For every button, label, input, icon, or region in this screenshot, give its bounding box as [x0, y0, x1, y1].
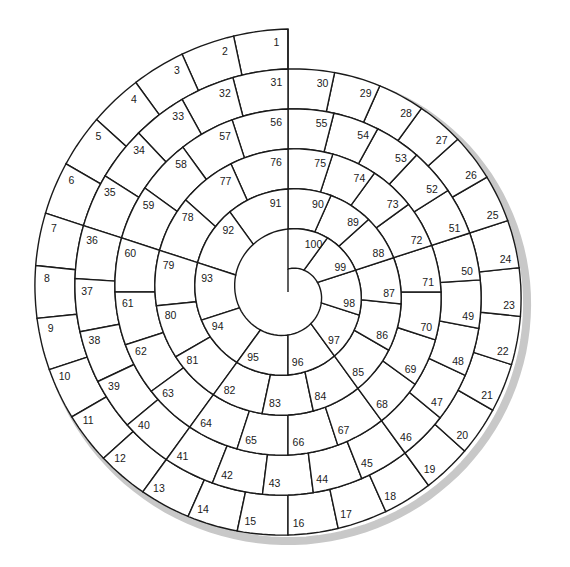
- cell-number: 3: [174, 64, 180, 76]
- cell-number: 81: [187, 354, 199, 366]
- cell-number: 41: [177, 450, 189, 462]
- cell-number: 27: [436, 134, 448, 146]
- cell-15: [237, 492, 288, 535]
- cell-number: 55: [316, 117, 328, 129]
- cell-number: 92: [222, 224, 234, 236]
- cell-number: 50: [461, 265, 473, 277]
- cell-number: 61: [122, 297, 134, 309]
- cell-number: 88: [373, 247, 385, 259]
- cell-number: 13: [153, 482, 165, 494]
- cell-number: 56: [270, 116, 282, 128]
- cell-number: 90: [312, 198, 324, 210]
- cell-number: 16: [293, 517, 305, 529]
- cell-number: 20: [456, 429, 468, 441]
- cell-number: 72: [411, 234, 423, 246]
- cell-number: 24: [500, 253, 512, 265]
- cell-number: 65: [245, 434, 257, 446]
- cell-number: 97: [328, 334, 340, 346]
- cell-number: 37: [81, 285, 93, 297]
- cell-number: 36: [86, 234, 98, 246]
- cell-number: 85: [352, 366, 364, 378]
- cell-number: 40: [138, 419, 150, 431]
- cell-number: 22: [497, 345, 509, 357]
- cell-number: 35: [104, 186, 116, 198]
- cell-number: 67: [338, 424, 350, 436]
- cell-number: 32: [219, 87, 231, 99]
- cell-number: 17: [340, 508, 352, 520]
- cell-number: 71: [422, 276, 434, 288]
- cell-number: 74: [354, 172, 366, 184]
- cell-number: 15: [244, 515, 256, 527]
- cell-number: 5: [95, 130, 101, 142]
- cell-number: 42: [221, 469, 233, 481]
- cell-number: 34: [133, 144, 145, 156]
- cell-number: 29: [360, 87, 372, 99]
- cell-number: 2: [222, 45, 228, 57]
- cell-number: 84: [315, 390, 327, 402]
- cell-number: 73: [387, 198, 399, 210]
- spiral-game-board: 1234567891011121314151617181920212223242…: [0, 0, 570, 567]
- cell-number: 21: [481, 389, 493, 401]
- cell-number: 78: [182, 211, 194, 223]
- cell-number: 51: [449, 222, 461, 234]
- cell-number: 48: [452, 355, 464, 367]
- cell-number: 39: [108, 380, 120, 392]
- cell-number: 12: [114, 452, 126, 464]
- cell-number: 75: [314, 157, 326, 169]
- cell-number: 82: [224, 384, 236, 396]
- cell-number: 99: [334, 261, 346, 273]
- cell-number: 91: [270, 197, 282, 209]
- cell-number: 93: [201, 272, 213, 284]
- cell-number: 44: [316, 473, 328, 485]
- cell-number: 19: [424, 463, 436, 475]
- cell-number: 69: [405, 363, 417, 375]
- cell-number: 76: [270, 156, 282, 168]
- cell-number: 62: [135, 345, 147, 357]
- cell-number: 52: [426, 183, 438, 195]
- track-cells: [35, 29, 521, 535]
- cell-number: 18: [384, 490, 396, 502]
- cell-49: [440, 280, 482, 329]
- cell-number: 59: [143, 199, 155, 211]
- cell-number: 53: [395, 152, 407, 164]
- cell-number: 63: [162, 387, 174, 399]
- cell-number: 95: [247, 351, 259, 363]
- cell-number: 83: [269, 397, 281, 409]
- cell-number: 66: [293, 436, 305, 448]
- cell-number: 87: [383, 287, 395, 299]
- cell-number: 98: [343, 297, 355, 309]
- cell-number: 89: [347, 216, 359, 228]
- cell-number: 68: [376, 398, 388, 410]
- cell-number: 60: [124, 247, 136, 259]
- cell-1: [234, 29, 288, 75]
- cell-number: 43: [269, 477, 281, 489]
- cell-number: 100: [305, 238, 323, 250]
- cell-number: 54: [357, 129, 369, 141]
- cell-number: 47: [431, 396, 443, 408]
- cell-30: [288, 69, 335, 112]
- cell-number: 57: [219, 130, 231, 142]
- cell-number: 96: [292, 356, 304, 368]
- cell-number: 80: [165, 309, 177, 321]
- cell-number: 1: [274, 36, 280, 48]
- cell-number: 70: [420, 321, 432, 333]
- cell-number: 23: [503, 299, 515, 311]
- cell-number: 94: [212, 320, 224, 332]
- cell-number: 26: [465, 169, 477, 181]
- cell-number: 58: [175, 158, 187, 170]
- cell-8: [35, 266, 77, 319]
- cell-number: 9: [48, 322, 54, 334]
- cell-number: 8: [44, 272, 50, 284]
- cell-number: 11: [83, 414, 94, 426]
- cell-number: 77: [220, 175, 232, 187]
- cell-number: 46: [400, 431, 412, 443]
- cell-number: 28: [400, 107, 412, 119]
- cell-number: 31: [271, 76, 283, 88]
- cell-number: 10: [59, 370, 71, 382]
- cell-number: 49: [462, 310, 474, 322]
- cell-number: 30: [317, 77, 329, 89]
- cell-number: 45: [361, 457, 373, 469]
- cell-number: 4: [131, 93, 137, 105]
- cell-number: 6: [68, 174, 74, 186]
- cell-number: 38: [89, 334, 101, 346]
